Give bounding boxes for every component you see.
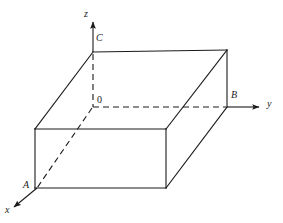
origin-label: 0: [97, 95, 102, 105]
axis-label-z: z: [84, 9, 88, 19]
vertex-label-a: A: [23, 180, 29, 190]
figure-container: z C 0 B y A x: [0, 0, 283, 223]
axis-x-line: [14, 188, 37, 207]
hidden-edge-x: [37, 108, 92, 188]
edge-top-back: [93, 50, 227, 52]
edge-top-left: [35, 52, 93, 129]
axis-label-y: y: [267, 99, 271, 109]
vertex-label-b: B: [231, 90, 237, 100]
vertex-label-c: C: [96, 33, 103, 43]
box-diagram-svg: [0, 0, 283, 223]
axis-label-x: x: [5, 205, 9, 215]
edge-top-right: [166, 50, 227, 129]
box-solid-edges: [35, 50, 228, 188]
box-hidden-edges: [37, 54, 226, 188]
edge-bottom-right: [166, 107, 227, 188]
